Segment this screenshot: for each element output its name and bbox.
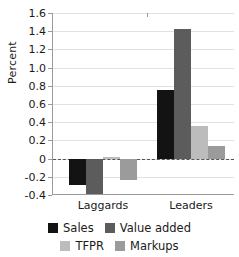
bar (191, 126, 208, 159)
y-tick-mark (48, 86, 52, 87)
bar (157, 90, 174, 158)
y-tick-mark (48, 195, 52, 196)
bar (103, 157, 120, 159)
legend-entry-markups: Markups (115, 239, 179, 253)
y-tick-mark (48, 104, 52, 105)
x-axis-tick-mid (147, 13, 148, 17)
legend-swatch-sales (48, 223, 58, 233)
bar (208, 146, 225, 159)
bar-chart-figure: Percent 1.61.41.21.00.80.60.40.20-0.2-0.… (0, 0, 239, 257)
x-category-label: Laggards (78, 199, 129, 212)
y-tick-mark (48, 13, 52, 14)
gridline (53, 68, 234, 69)
y-tick-label: 1.0 (29, 61, 47, 74)
gridline (53, 31, 234, 32)
legend-label-sales: Sales (63, 221, 94, 235)
legend-row-1: Sales Value added (0, 219, 239, 237)
y-tick-mark (48, 122, 52, 123)
gridline (53, 86, 234, 87)
legend-entry-value-added: Value added (105, 221, 191, 235)
y-tick-label: 1.2 (29, 43, 47, 56)
gridline (53, 13, 234, 14)
y-tick-mark (48, 159, 52, 160)
bar (174, 29, 191, 158)
gridline (53, 122, 234, 123)
y-tick-label: 0.4 (29, 116, 47, 129)
x-category-label: Leaders (169, 199, 212, 212)
y-tick-label: 1.4 (29, 25, 47, 38)
y-tick-mark (48, 68, 52, 69)
y-tick-label: 0.2 (29, 134, 47, 147)
y-tick-label: -0.2 (25, 170, 46, 183)
chart-legend: Sales Value added TFPR Markups (0, 219, 239, 255)
bar (120, 159, 137, 180)
legend-swatch-value-added (105, 223, 115, 233)
y-axis-title: Percent (6, 18, 19, 108)
y-tick-mark (48, 177, 52, 178)
legend-swatch-markups (115, 241, 125, 251)
legend-label-markups: Markups (130, 239, 179, 253)
legend-row-2: TFPR Markups (0, 237, 239, 255)
legend-swatch-tfpr (60, 241, 70, 251)
y-tick-mark (48, 49, 52, 50)
y-tick-label: 0.8 (29, 79, 47, 92)
legend-label-value-added: Value added (120, 221, 191, 235)
gridline (53, 104, 234, 105)
y-tick-mark (48, 31, 52, 32)
y-tick-label: 0 (39, 152, 46, 165)
legend-label-tfpr: TFPR (75, 239, 104, 253)
x-axis-line (52, 194, 234, 195)
legend-entry-sales: Sales (48, 221, 94, 235)
y-tick-label: 0.6 (29, 98, 47, 111)
y-tick-mark (48, 140, 52, 141)
gridline (53, 49, 234, 50)
legend-entry-tfpr: TFPR (60, 239, 104, 253)
y-tick-label: 1.6 (29, 7, 47, 20)
bar (69, 159, 86, 185)
plot-area: 1.61.41.21.00.80.60.40.20-0.2-0.4 Laggar… (52, 13, 234, 195)
bar (86, 159, 103, 194)
y-tick-label: -0.4 (25, 189, 46, 202)
